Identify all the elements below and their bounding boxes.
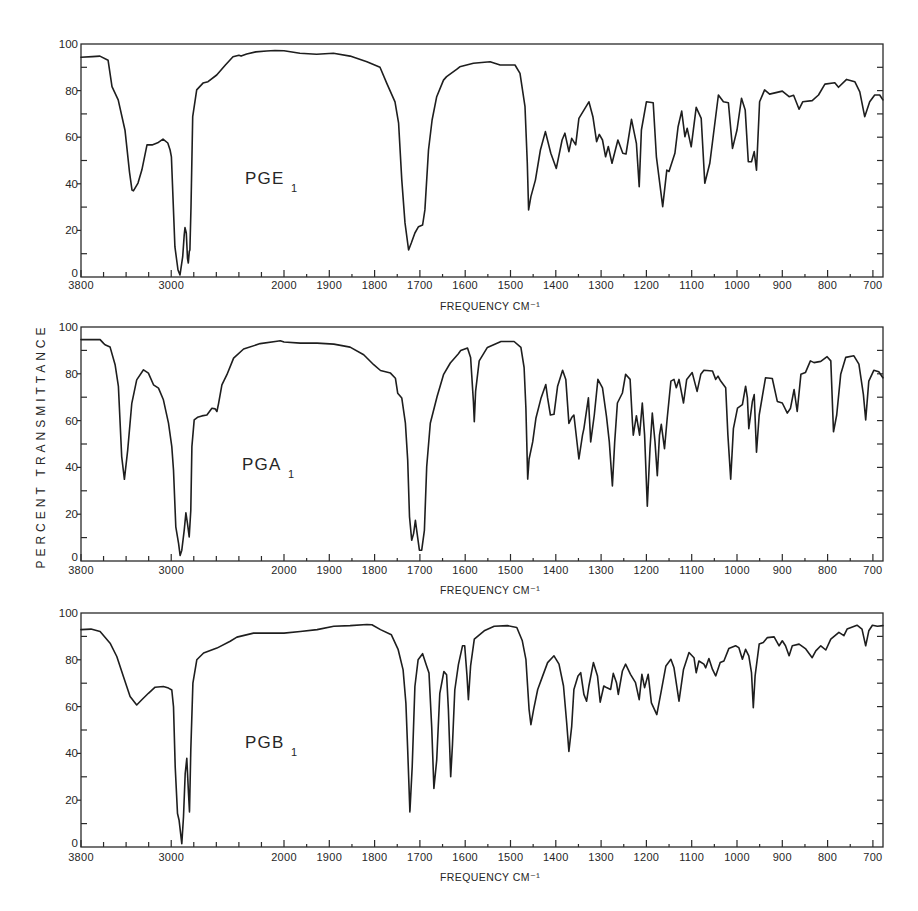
y-tick-label: 0 — [72, 551, 78, 563]
x-tick-label: 1800 — [362, 564, 388, 576]
x-tick-label: 1600 — [452, 279, 478, 291]
x-tick-label: 700 — [863, 279, 882, 291]
y-tick-label: 20 — [65, 508, 78, 520]
x-tick-label: 1300 — [588, 851, 614, 863]
x-tick-label: 900 — [773, 279, 792, 291]
spectrum-panel-pge1: 0204060801003800300020001900180017001600… — [59, 38, 883, 312]
x-tick-label: 1000 — [724, 851, 750, 863]
x-tick-label: 1800 — [362, 851, 388, 863]
x-tick-label: 3800 — [68, 279, 94, 291]
plot-frame — [81, 613, 883, 847]
x-tick-label: 700 — [863, 851, 882, 863]
x-tick-label: 3000 — [158, 279, 184, 291]
x-tick-label: 1700 — [407, 564, 433, 576]
x-tick-label: 2000 — [271, 851, 297, 863]
x-tick-label: 3000 — [158, 564, 184, 576]
x-tick-label: 800 — [818, 564, 837, 576]
y-tick-label: 60 — [65, 415, 78, 427]
spectra-chart: PERCENT TRANSMITTANCE 020406080100380030… — [0, 0, 918, 911]
spectrum-curve-pgb1 — [81, 625, 883, 844]
x-tick-label: 800 — [818, 851, 837, 863]
spectrum-panel-pga1: 0204060801003800300020001900180017001600… — [59, 321, 883, 596]
compound-label: PGA — [242, 455, 282, 474]
x-tick-label: 3800 — [68, 851, 94, 863]
y-tick-label: 20 — [65, 224, 78, 236]
compound-label: PGE — [245, 169, 285, 188]
x-tick-label: 1100 — [679, 564, 704, 576]
y-tick-label: 80 — [65, 368, 78, 380]
x-tick-label: 1500 — [498, 564, 524, 576]
x-tick-label: 1000 — [724, 564, 750, 576]
x-tick-label: 700 — [863, 564, 882, 576]
y-tick-label: 0 — [72, 837, 78, 849]
y-tick-label: 80 — [65, 654, 78, 666]
x-tick-label: 1800 — [362, 279, 388, 291]
x-tick-label: 800 — [818, 279, 837, 291]
x-tick-label: 1100 — [679, 851, 704, 863]
y-tick-label: 100 — [59, 607, 78, 619]
compound-label: PGB — [245, 733, 285, 752]
y-tick-label: 40 — [65, 178, 78, 190]
x-tick-label: 1600 — [452, 564, 478, 576]
compound-label-subscript: 1 — [288, 468, 294, 480]
spectrum-curve-pga1 — [81, 340, 883, 556]
y-tick-label: 100 — [59, 38, 78, 50]
y-tick-label: 80 — [65, 85, 78, 97]
x-axis-label: FREQUENCY CM⁻¹ — [440, 584, 540, 596]
y-tick-label: 60 — [65, 131, 78, 143]
x-tick-label: 1700 — [407, 279, 433, 291]
x-tick-label: 900 — [773, 564, 792, 576]
x-tick-label: 3000 — [158, 851, 184, 863]
x-tick-label: 3800 — [68, 564, 94, 576]
x-tick-label: 1400 — [543, 851, 569, 863]
x-tick-label: 1400 — [543, 279, 569, 291]
plot-frame — [81, 327, 883, 561]
y-axis-label: PERCENT TRANSMITTANCE — [34, 328, 48, 569]
ir-spectra-figure: PERCENT TRANSMITTANCE 020406080100380030… — [0, 0, 918, 911]
x-tick-label: 1500 — [498, 851, 524, 863]
x-tick-label: 1600 — [452, 851, 478, 863]
x-tick-label: 1400 — [543, 564, 569, 576]
x-tick-label: 1900 — [316, 564, 342, 576]
x-tick-label: 1300 — [588, 564, 614, 576]
x-tick-label: 1200 — [634, 851, 660, 863]
x-tick-label: 1200 — [634, 564, 660, 576]
compound-label-subscript: 1 — [291, 746, 297, 758]
compound-label-subscript: 1 — [291, 182, 297, 194]
x-tick-label: 1300 — [588, 279, 614, 291]
x-axis-label: FREQUENCY CM⁻¹ — [440, 300, 540, 312]
y-tick-label: 100 — [59, 321, 78, 333]
spectrum-panel-pgb1: 0204060801003800300020001900180017001600… — [59, 607, 883, 883]
y-tick-label: 40 — [65, 461, 78, 473]
x-tick-label: 900 — [773, 851, 792, 863]
x-tick-label: 1000 — [724, 279, 750, 291]
x-tick-label: 1900 — [316, 279, 342, 291]
y-tick-label: 40 — [65, 747, 78, 759]
x-tick-label: 1900 — [316, 851, 342, 863]
spectrum-curve-pge1 — [81, 51, 883, 275]
x-tick-label: 1100 — [679, 279, 704, 291]
y-tick-label: 0 — [72, 267, 78, 279]
x-tick-label: 1700 — [407, 851, 433, 863]
x-tick-label: 1200 — [634, 279, 660, 291]
y-tick-label: 60 — [65, 701, 78, 713]
x-axis-label: FREQUENCY CM⁻¹ — [440, 871, 540, 883]
x-tick-label: 2000 — [271, 279, 297, 291]
y-tick-label: 20 — [65, 794, 78, 806]
plot-frame — [81, 44, 883, 277]
x-tick-label: 2000 — [271, 564, 297, 576]
x-tick-label: 1500 — [498, 279, 524, 291]
